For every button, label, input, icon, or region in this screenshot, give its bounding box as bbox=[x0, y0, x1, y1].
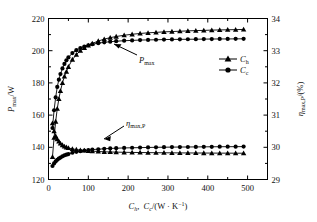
circle-marker-icon bbox=[86, 43, 90, 47]
circle-marker-icon bbox=[146, 38, 150, 42]
circle-marker-icon bbox=[96, 147, 100, 151]
y-left-tick-label: 160 bbox=[32, 110, 45, 120]
circle-marker-icon bbox=[225, 67, 230, 72]
circle-marker-icon bbox=[102, 147, 106, 151]
circle-marker-icon bbox=[242, 145, 246, 149]
x-tick-label: 500 bbox=[241, 183, 254, 193]
circle-marker-icon bbox=[202, 145, 206, 149]
circle-marker-icon bbox=[234, 37, 238, 41]
chart-svg: 0100200300400500 120140160180200220 2930… bbox=[0, 0, 317, 222]
circle-marker-icon bbox=[96, 41, 100, 45]
circle-marker-icon bbox=[114, 146, 118, 150]
x-axis-label-unit: /(W · K bbox=[152, 201, 179, 211]
circle-marker-icon bbox=[70, 51, 74, 55]
x-axis-label-unit-close: ) bbox=[185, 201, 188, 211]
power-annotation-subscript: max bbox=[144, 60, 154, 66]
y-left-tick-label: 200 bbox=[32, 46, 45, 56]
circle-marker-icon bbox=[154, 145, 158, 149]
circle-marker-icon bbox=[86, 148, 90, 152]
y-right-tick-label: 33 bbox=[272, 46, 281, 56]
circle-marker-icon bbox=[55, 85, 59, 89]
circle-marker-icon bbox=[90, 147, 94, 151]
circle-marker-icon bbox=[138, 38, 142, 42]
x-tick-label: 100 bbox=[82, 183, 95, 193]
circle-marker-icon bbox=[194, 145, 198, 149]
circle-marker-icon bbox=[57, 78, 61, 82]
circle-marker-icon bbox=[178, 145, 182, 149]
circle-marker-icon bbox=[122, 39, 126, 43]
circle-marker-icon bbox=[90, 42, 94, 46]
y-right-tick-label: 29 bbox=[272, 175, 281, 185]
y-axis-right-subscript: max,P bbox=[300, 96, 306, 112]
circle-marker-icon bbox=[52, 108, 56, 112]
circle-marker-icon bbox=[162, 37, 166, 41]
circle-marker-icon bbox=[62, 62, 66, 66]
x-tick-label: 200 bbox=[122, 183, 135, 193]
y-right-tick-label: 34 bbox=[272, 14, 281, 24]
circle-marker-icon bbox=[74, 48, 78, 52]
circle-marker-icon bbox=[54, 95, 58, 99]
circle-marker-icon bbox=[186, 37, 190, 41]
circle-marker-icon bbox=[186, 145, 190, 149]
circle-marker-icon bbox=[74, 150, 78, 154]
circle-marker-icon bbox=[78, 149, 82, 153]
circle-marker-icon bbox=[82, 148, 86, 152]
circle-marker-icon bbox=[130, 146, 134, 150]
y-left-tick-label: 180 bbox=[32, 78, 45, 88]
y-axis-right-unit: /(%) bbox=[295, 82, 305, 97]
efficiency-annotation-subscript: max,P bbox=[130, 123, 146, 129]
y-right-tick-label: 32 bbox=[272, 78, 281, 88]
circle-marker-icon bbox=[82, 44, 86, 48]
circle-marker-icon bbox=[108, 40, 112, 44]
circle-marker-icon bbox=[60, 66, 64, 70]
circle-marker-icon bbox=[170, 37, 174, 41]
circle-marker-icon bbox=[70, 151, 74, 155]
circle-marker-icon bbox=[226, 145, 230, 149]
circle-marker-icon bbox=[138, 146, 142, 150]
legend-cc-subscript: c bbox=[246, 70, 249, 76]
y-left-tick-label: 140 bbox=[32, 142, 45, 152]
circle-marker-icon bbox=[78, 46, 82, 50]
circle-marker-icon bbox=[194, 37, 198, 41]
circle-marker-icon bbox=[130, 38, 134, 42]
x-tick-label: 400 bbox=[201, 183, 214, 193]
circle-marker-icon bbox=[210, 145, 214, 149]
circle-marker-icon bbox=[102, 40, 106, 44]
circle-marker-icon bbox=[218, 37, 222, 41]
circle-marker-icon bbox=[162, 145, 166, 149]
circle-marker-icon bbox=[154, 38, 158, 42]
circle-marker-icon bbox=[210, 37, 214, 41]
circle-marker-icon bbox=[234, 145, 238, 149]
circle-marker-icon bbox=[242, 37, 246, 41]
legend-ch-subscript: h bbox=[246, 59, 249, 65]
circle-marker-icon bbox=[66, 152, 70, 156]
circle-marker-icon bbox=[218, 145, 222, 149]
x-tick-label: 0 bbox=[46, 183, 50, 193]
circle-marker-icon bbox=[202, 37, 206, 41]
circle-marker-icon bbox=[170, 145, 174, 149]
y-right-tick-label: 31 bbox=[272, 110, 281, 120]
circle-marker-icon bbox=[66, 55, 70, 59]
y-right-tick-label: 30 bbox=[272, 142, 281, 152]
circle-marker-icon bbox=[146, 145, 150, 149]
chart-figure: 0100200300400500 120140160180200220 2930… bbox=[0, 0, 317, 222]
y-left-tick-label: 120 bbox=[32, 175, 45, 185]
x-tick-label: 300 bbox=[162, 183, 175, 193]
circle-marker-icon bbox=[108, 146, 112, 150]
circle-marker-icon bbox=[226, 37, 230, 41]
circle-marker-icon bbox=[114, 39, 118, 43]
y-axis-left-subscript: max bbox=[11, 96, 17, 106]
circle-marker-icon bbox=[122, 146, 126, 150]
circle-marker-icon bbox=[58, 72, 62, 76]
circle-marker-icon bbox=[178, 37, 182, 41]
y-axis-left-unit: /W bbox=[6, 86, 16, 96]
y-left-tick-label: 220 bbox=[32, 14, 45, 24]
